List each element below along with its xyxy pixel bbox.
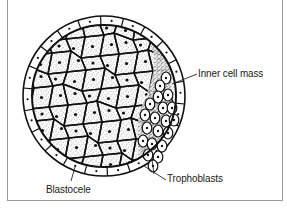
label-inner-cell-mass: Inner cell mass — [198, 67, 263, 79]
blastocyst-diagram — [0, 0, 287, 210]
label-trophoblasts: Trophoblasts — [167, 172, 223, 184]
label-blastocele: Blastocele — [46, 183, 91, 195]
